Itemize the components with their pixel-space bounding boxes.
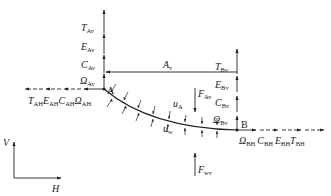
label-c-av: CAv: [81, 59, 96, 71]
label-f-av: FAv: [197, 88, 212, 100]
label-b-horizontal-forces: ΩBHCBHEBHTBH: [239, 135, 305, 147]
label-a-horizontal-forces: TAHEAHCAHΩAH: [28, 95, 91, 107]
label-f-wv: Fwv: [197, 164, 213, 176]
label-v-axis: V: [3, 137, 11, 148]
free-body-diagram: TAv EAv CAv ΩAv TAHEAHCAHΩAH Av TBv EBv …: [0, 0, 331, 196]
label-omega-av: ΩAv: [80, 75, 95, 87]
label-e-bv: EBv: [214, 79, 229, 91]
label-span: Av: [162, 59, 173, 71]
label-t-bv: TBv: [215, 61, 229, 73]
label-point-b: B: [241, 119, 248, 130]
label-c-bv: CBv: [215, 97, 230, 109]
point-b-dot: [235, 128, 238, 131]
label-omega-bv: ΩBv: [213, 114, 229, 126]
label-h-axis: H: [51, 183, 60, 194]
label-u-a: uA: [173, 98, 183, 110]
point-a-dot: [102, 87, 105, 90]
reference-axes: [14, 142, 61, 178]
label-e-av: EAv: [80, 41, 95, 53]
label-t-av: TAv: [81, 22, 95, 34]
